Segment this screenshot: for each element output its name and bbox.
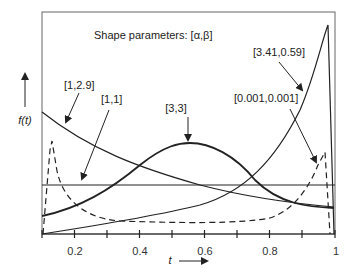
annotation-arrow-icon xyxy=(66,93,79,122)
y-axis-label: f(t) xyxy=(18,114,32,126)
annotation-label-0.001-0.001: [0.001,0.001] xyxy=(234,92,298,104)
annotation-label-3.41-0.59: [3.41,0.59] xyxy=(253,46,305,58)
series-0.001-0.001 xyxy=(43,141,330,234)
x-tick-label: 0.8 xyxy=(262,245,277,257)
x-tick-label: 1 xyxy=(333,245,339,257)
chart-title: Shape parameters: [α,β] xyxy=(94,29,212,41)
x-tick-label: 0.2 xyxy=(67,245,82,257)
annotation-label-1-1: [1,1] xyxy=(101,93,122,105)
x-tick-label: 0.4 xyxy=(132,245,147,257)
annotation-label-3-3: [3,3] xyxy=(165,102,186,114)
x-axis-label: t xyxy=(168,254,172,266)
series-3-3 xyxy=(42,143,334,216)
annotation-arrow-icon xyxy=(290,109,316,162)
annotation-arrow-icon xyxy=(279,62,302,90)
beta-distribution-chart: 0.2 0.4 0.6 0.8 1 t f(t) Shape parameter… xyxy=(0,0,354,278)
annotation-label-1-2.9: [1,2.9] xyxy=(64,79,95,91)
x-axis xyxy=(42,230,335,238)
annotation-arrow-icon xyxy=(82,110,109,179)
x-tick-label: 0.6 xyxy=(197,245,212,257)
